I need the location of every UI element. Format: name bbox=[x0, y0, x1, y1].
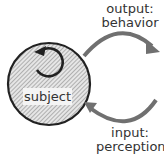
output-label-line1: output: bbox=[96, 2, 164, 16]
input-label-line2: perception bbox=[96, 140, 164, 154]
output-arrow-icon bbox=[84, 33, 160, 56]
input-label-line1: input: bbox=[96, 126, 164, 140]
output-label-line2: behavior bbox=[96, 16, 164, 30]
input-perception-label: input: perception bbox=[96, 126, 164, 154]
output-behavior-label: output: behavior bbox=[96, 2, 164, 30]
subject-label: subject bbox=[23, 88, 72, 105]
input-arrow-icon bbox=[84, 100, 156, 121]
subject-circle bbox=[8, 43, 90, 125]
